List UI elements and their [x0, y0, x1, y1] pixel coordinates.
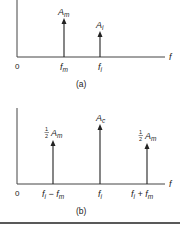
origin-label-b: 0	[15, 189, 20, 198]
fraction-numerator: 1	[139, 129, 142, 135]
frequency-label: fm	[60, 62, 69, 73]
caption-a: (a)	[76, 79, 87, 89]
spectrum-diagram: f 0 Am fm Ai fi (a) f 0 1 2 A	[0, 0, 180, 229]
amplitude-label: Am	[144, 131, 157, 142]
frequency-label: fi − fm	[42, 189, 65, 200]
axis-label-f-b: f	[169, 179, 173, 189]
amplitude-label: Am	[57, 7, 70, 18]
amplitude-label: Am	[50, 128, 63, 139]
axis-label-f-a: f	[169, 52, 173, 62]
spectral-line-fm: Am fm	[57, 7, 70, 73]
arrowhead-icon	[98, 124, 103, 130]
origin-label-a: 0	[15, 62, 20, 71]
spectral-line-upper-sideband: 1 2 Am fi + fm	[131, 129, 157, 200]
frequency-label: fi + fm	[131, 189, 154, 200]
arrowhead-icon	[51, 140, 56, 146]
fraction-numerator: 1	[45, 126, 48, 132]
fraction-denominator: 2	[139, 136, 142, 142]
caption-b: (b)	[76, 206, 87, 216]
amplitude-label: Ai	[95, 20, 104, 31]
amplitude-label: Ac	[95, 113, 106, 124]
arrowhead-icon	[62, 18, 67, 24]
figure-b: f 0 1 2 Am fi − fm Ac fi 1 2 Am fi +	[15, 108, 173, 216]
fraction-denominator: 2	[45, 133, 48, 139]
arrowhead-icon	[145, 143, 150, 149]
spectral-line-lower-sideband: 1 2 Am fi − fm	[42, 126, 65, 200]
arrowhead-icon	[98, 31, 103, 37]
frequency-label: fi	[98, 62, 103, 73]
figure-a: f 0 Am fm Ai fi (a)	[15, 0, 173, 89]
spectral-line-carrier: Ac fi	[95, 113, 106, 200]
spectral-line-fi: Ai fi	[95, 20, 104, 73]
frequency-label: fi	[98, 189, 103, 200]
